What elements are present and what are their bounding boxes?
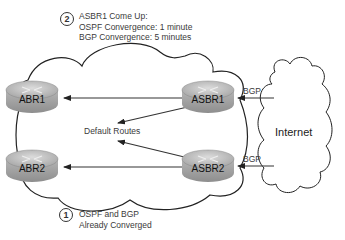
step-1-note: OSPF and BGP Already Converged — [79, 209, 152, 230]
step-2-line-2: OSPF Convergence: 1 minute — [79, 22, 192, 33]
step-1-line-2: Already Converged — [79, 220, 152, 231]
bgp-label-bottom: BGP — [243, 154, 261, 164]
step-1-badge: 1 — [59, 208, 73, 222]
abr2-label: ABR2 — [7, 163, 57, 174]
step-2-line-3: BGP Convergence: 5 minutes — [79, 32, 192, 43]
asbr1-label: ASBR1 — [183, 94, 233, 105]
internet-label: Internet — [275, 126, 312, 138]
default-routes-label: Default Routes — [84, 126, 140, 136]
step-1-line-1: OSPF and BGP — [79, 209, 152, 220]
abr1-label: ABR1 — [7, 94, 57, 105]
step-2-badge: 2 — [60, 12, 74, 26]
step-2-line-1: ASBR1 Come Up: — [79, 11, 192, 22]
bgp-label-top: BGP — [243, 86, 261, 96]
internet-cloud — [258, 57, 332, 192]
step-2-note: ASBR1 Come Up: OSPF Convergence: 1 minut… — [79, 11, 192, 43]
asbr2-label: ASBR2 — [183, 163, 233, 174]
